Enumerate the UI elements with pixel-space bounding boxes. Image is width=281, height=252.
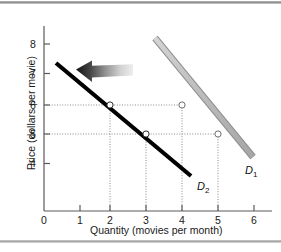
- curve-label-d1: D1: [245, 164, 257, 179]
- demand-shift-chart-figure: 8 7 6 5 4 0 1 2 3 4 5 6 Price (dollars p…: [0, 0, 281, 252]
- x-tick-label-6: 6: [247, 214, 261, 226]
- curve-label-d2-text: D: [197, 180, 205, 192]
- x-axis-title: Quantity (movies per month): [90, 224, 222, 236]
- x-tick-label-0: 0: [37, 214, 51, 226]
- marker-d1-q4-p6: [179, 102, 185, 108]
- y-axis-ticks: [44, 44, 50, 164]
- x-tick-label-1: 1: [73, 214, 87, 226]
- curve-label-d2: D2: [197, 180, 209, 195]
- axis-lines: [44, 26, 272, 211]
- curve-label-d1-text: D: [245, 164, 253, 176]
- marker-d2-q3-p5: [143, 131, 149, 137]
- marker-d1-q5-p5: [215, 131, 221, 137]
- x-axis-ticks: [80, 205, 254, 211]
- dotted-guide-lines: [44, 105, 218, 211]
- curve-label-d2-sub: 2: [205, 186, 209, 195]
- marker-d2-q2-p6: [107, 102, 113, 108]
- shift-arrow-left-icon: [76, 61, 133, 83]
- demand-curve-d2: [56, 63, 191, 176]
- demand-curve-d1: [155, 38, 253, 157]
- y-axis-title: Price (dollars per movie): [25, 33, 37, 193]
- curve-label-d1-sub: 1: [253, 170, 257, 179]
